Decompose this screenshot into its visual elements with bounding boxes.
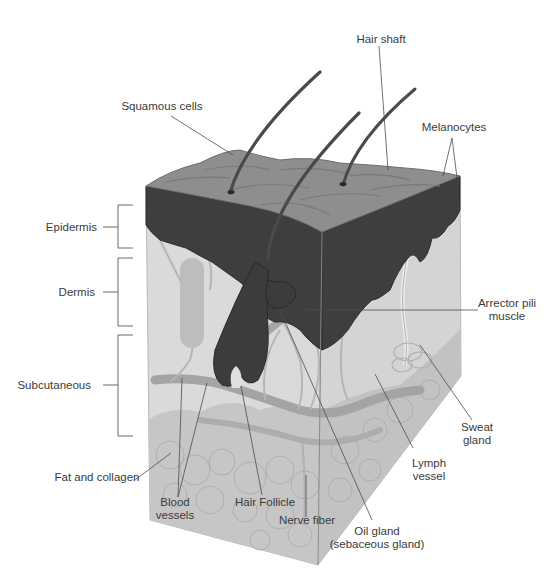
label-blood-vessels: Blood vessels (156, 496, 194, 522)
label-epidermis: Epidermis (46, 221, 97, 234)
hair-shaft-leader (379, 46, 388, 170)
squamous-cells-leader (171, 116, 233, 155)
label-dermis: Dermis (59, 286, 95, 299)
melanocytes-leader-2 (452, 138, 457, 178)
label-arrector-pili-line1: Arrector pili (478, 297, 536, 310)
dermis-bracket (103, 258, 133, 326)
dermal-vessel-column (180, 258, 204, 348)
label-sweat-gland: Sweat gland (461, 421, 493, 447)
label-oil-gland: Oil gland (sebaceous gland) (330, 525, 425, 551)
label-hair-shaft: Hair shaft (356, 33, 405, 46)
layer-brackets (103, 205, 133, 436)
label-squamous-cells: Squamous cells (121, 100, 202, 113)
label-nerve-fiber: Nerve fiber (279, 514, 335, 527)
label-fat-and-collagen: Fat and collagen (54, 471, 139, 484)
label-oil-gland-line2: (sebaceous gland) (330, 538, 425, 551)
label-lymph-vessel-line2: vessel (412, 470, 446, 483)
hair-pore-1 (228, 190, 235, 194)
label-melanocytes: Melanocytes (422, 121, 487, 134)
subcutaneous-bracket (103, 335, 133, 436)
label-blood-vessels-line1: Blood (156, 496, 194, 509)
label-oil-gland-line1: Oil gland (330, 525, 425, 538)
label-lymph-vessel: Lymph vessel (412, 457, 446, 483)
label-blood-vessels-line2: vessels (156, 509, 194, 522)
label-lymph-vessel-line1: Lymph (412, 457, 446, 470)
label-sweat-gland-line1: Sweat (461, 421, 493, 434)
label-sweat-gland-line2: gland (461, 434, 493, 447)
label-hair-follicle: Hair Follicle (235, 496, 295, 509)
label-subcutaneous: Subcutaneous (17, 379, 91, 392)
epidermis-bracket (103, 205, 133, 248)
label-arrector-pili-line2: muscle (478, 310, 536, 323)
label-arrector-pili-muscle: Arrector pili muscle (478, 297, 536, 323)
hair-pore-2 (340, 182, 347, 186)
melanocytes-leader-1 (443, 138, 452, 176)
